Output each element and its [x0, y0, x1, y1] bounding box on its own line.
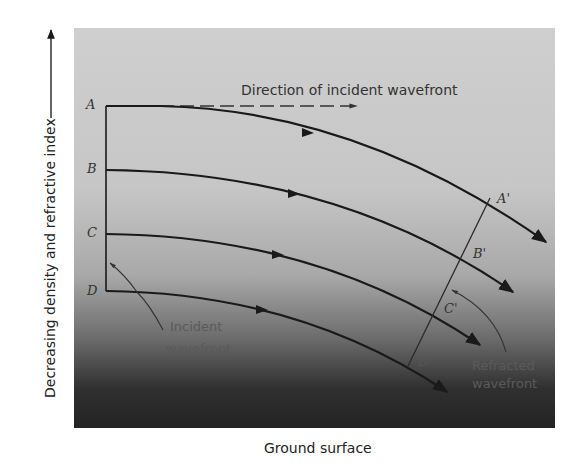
point-A-prime: A' [497, 191, 510, 206]
point-B-prime: B' [473, 246, 486, 261]
point-D-prime: D' [418, 354, 432, 369]
incident-label-line2: wavefront [166, 342, 231, 356]
refracted-pointer-arrow [452, 290, 506, 352]
ray-B-arrowhead-icon [288, 189, 300, 198]
incident-pointer-arrow [110, 263, 163, 330]
point-D: D [87, 283, 97, 298]
point-A: A [86, 97, 95, 112]
point-C-prime: C' [444, 301, 458, 316]
ray-D [106, 291, 447, 392]
ray-D-arrowhead-icon [256, 305, 268, 314]
ray-B [106, 170, 513, 292]
incident-label-line1: Incident [170, 320, 222, 334]
ray-A-arrowhead-icon [302, 128, 314, 137]
refracted-wavefront-line [408, 198, 490, 366]
direction-label: Direction of incident wavefront [241, 83, 458, 98]
refraction-diagram: Decreasing density and refractive index … [0, 0, 584, 470]
point-C: C [87, 225, 97, 240]
y-axis-label: Decreasing density and refractive index [42, 118, 58, 398]
point-B: B [87, 161, 97, 176]
ray-C-arrowhead-icon [272, 250, 284, 259]
refracted-label-line2: wavefront [472, 377, 537, 391]
x-axis-label: Ground surface [264, 440, 372, 456]
refracted-label-line1: Refracted [472, 359, 535, 373]
